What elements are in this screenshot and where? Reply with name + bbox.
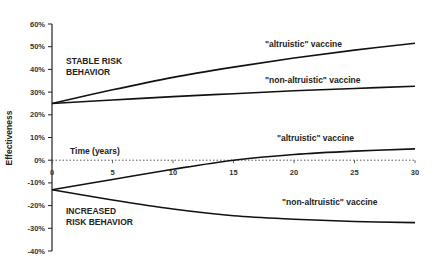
altruistic-increased-label: "altruistic" vaccine (277, 133, 354, 143)
y-tick-label: 0% (34, 156, 45, 165)
y-tick-label: 40% (30, 65, 45, 74)
y-tick-label: 10% (30, 133, 45, 142)
series-line-1 (52, 86, 415, 103)
x-tick-label: 25 (350, 168, 358, 177)
stable-risk-label-line2: BEHAVIOR (66, 67, 110, 77)
stable-risk-label-line1: STABLE RISK (66, 56, 123, 66)
y-tick-label: 50% (30, 42, 45, 51)
y-tick-label: -30% (27, 224, 45, 233)
increased-risk-label-line1: INCREASED (66, 206, 116, 216)
altruistic-stable-label: "altruistic" vaccine (265, 39, 342, 49)
line-chart: 60%50%40%30%20%10%0%-10%-20%-30%-40% 051… (0, 0, 435, 267)
y-tick-label: 20% (30, 110, 45, 119)
x-axis-label: Time (years) (70, 146, 120, 156)
y-axis-label: Effectiveness (4, 110, 14, 165)
non-altruistic-stable-label: "non-altruistic" vaccine (265, 75, 361, 85)
increased-risk-label-line2: RISK BEHAVIOR (66, 217, 133, 227)
x-tick-label: 20 (290, 168, 298, 177)
y-tick-label: 30% (30, 88, 45, 97)
y-tick-label: -40% (27, 247, 45, 256)
x-axis: 051015202530 (50, 160, 419, 177)
y-tick-label: -10% (27, 178, 45, 187)
y-axis: 60%50%40%30%20%10%0%-10%-20%-30%-40% (27, 20, 52, 256)
x-tick-label: 15 (229, 168, 237, 177)
non-altruistic-increased-label: "non-altruistic" vaccine (282, 197, 378, 207)
x-tick-label: 5 (110, 168, 114, 177)
y-tick-label: 60% (30, 20, 45, 29)
x-tick-label: 0 (50, 168, 54, 177)
y-tick-label: -20% (27, 201, 45, 210)
x-tick-label: 30 (411, 168, 419, 177)
